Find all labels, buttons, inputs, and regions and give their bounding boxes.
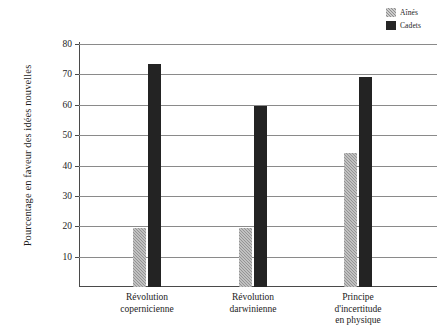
- category-label-line: Principe: [298, 292, 418, 304]
- y-axis-title: Pourcentage en faveur des idées nouvelle…: [22, 41, 33, 271]
- bar-aines: [133, 228, 146, 287]
- bar-cadets: [254, 106, 267, 287]
- y-tick-label: 60: [63, 100, 73, 110]
- y-tick-label: 30: [63, 191, 73, 201]
- legend-label-cadets: Cadets: [400, 21, 421, 30]
- y-tick-label: 70: [63, 69, 73, 79]
- y-tick-label: 80: [63, 39, 73, 49]
- category-label-line: copernicienne: [87, 304, 207, 316]
- category-label: Révolutiondarwinienne: [193, 292, 313, 315]
- bar-group: [239, 44, 267, 287]
- y-tick-label: 50: [63, 130, 73, 140]
- y-tick-mark-50: [75, 135, 79, 136]
- bar-chart-figure: Aînés Cadets Pourcentage en faveur des i…: [0, 0, 447, 336]
- category-label: Révolutioncopernicienne: [87, 292, 207, 315]
- legend-item-cadets: Cadets: [386, 20, 446, 31]
- bar-aines: [344, 153, 357, 287]
- category-label-line: Révolution: [193, 292, 313, 304]
- y-tick-label: 20: [63, 221, 73, 231]
- category-label: Principed'incertitudeen physique: [298, 292, 418, 327]
- legend-item-aines: Aînés: [386, 7, 446, 18]
- category-label-line: darwinienne: [193, 304, 313, 316]
- y-tick-label: 10: [63, 252, 73, 262]
- y-tick-mark-20: [75, 226, 79, 227]
- bar-cadets: [359, 77, 372, 287]
- y-tick-mark-80: [75, 44, 79, 45]
- category-label-line: d'incertitude: [298, 304, 418, 316]
- bar-group: [344, 44, 372, 287]
- legend-swatch-cadets: [386, 21, 396, 30]
- y-tick-mark-40: [75, 166, 79, 167]
- y-tick-mark-60: [75, 105, 79, 106]
- legend-label-aines: Aînés: [400, 8, 418, 17]
- y-tick-mark-70: [75, 74, 79, 75]
- category-label-line: en physique: [298, 315, 418, 327]
- bar-cadets: [148, 64, 161, 287]
- plot-area: 8070605040302010: [79, 44, 437, 287]
- y-tick-mark-30: [75, 196, 79, 197]
- category-label-line: Révolution: [87, 292, 207, 304]
- bar-aines: [239, 228, 252, 287]
- legend-swatch-aines: [386, 8, 396, 17]
- bar-group: [133, 44, 161, 287]
- chart-legend: Aînés Cadets: [386, 7, 446, 33]
- y-tick-label: 40: [63, 161, 73, 171]
- y-axis-line: [79, 42, 80, 287]
- y-tick-mark-10: [75, 257, 79, 258]
